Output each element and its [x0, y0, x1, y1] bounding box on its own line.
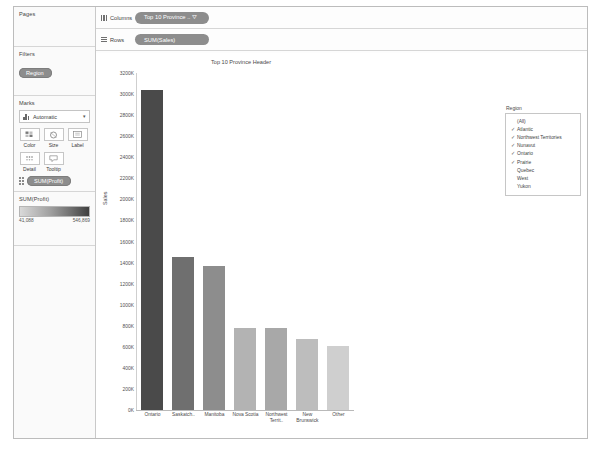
pages-card[interactable]: Pages [14, 7, 95, 47]
bar-mark[interactable] [203, 266, 225, 410]
y-axis-tick: 2400K [120, 155, 134, 160]
columns-shelf-label: Columns [110, 15, 132, 21]
rows-icon [101, 37, 107, 43]
drag-handle-icon[interactable] [19, 177, 25, 185]
region-legend-item[interactable]: West [508, 174, 578, 182]
bar-column [137, 73, 168, 410]
x-axis-label[interactable]: Ontario [137, 412, 168, 424]
bar-chart-icon [23, 113, 30, 120]
x-axis-label[interactable]: Northwest Territ.. [261, 412, 292, 424]
left-sidebar: Pages Filters Region Marks Automatic ▾ [14, 7, 96, 438]
marks-label-label: Label [67, 142, 88, 148]
detail-dots-icon [20, 152, 40, 165]
columns-shelf[interactable]: Columns Top 10 Province .. ⛛ [96, 7, 587, 29]
size-circle-icon [44, 128, 64, 141]
y-axis-tick: 1800K [120, 218, 134, 223]
y-axis-tick: 1000K [120, 302, 134, 307]
bar-column [261, 73, 292, 410]
bar-mark[interactable] [234, 328, 256, 410]
region-legend-item[interactable]: ✓Atlantic [508, 125, 578, 133]
region-legend-item[interactable]: (All) [508, 117, 578, 125]
y-axis-tick: 2800K [120, 113, 134, 118]
region-legend-item[interactable]: ✓Northwest Territories [508, 133, 578, 141]
checkmark-icon[interactable]: ✓ [509, 143, 516, 148]
region-legend-item[interactable]: Yukon [508, 183, 578, 191]
color-gradient-labels: 41,088 546,869 [19, 218, 90, 223]
region-legend-item[interactable]: ✓Ontario [508, 150, 578, 158]
rows-shelf-label: Rows [110, 37, 124, 43]
marks-label-button[interactable]: Label [67, 128, 88, 148]
marks-size-label: Size [43, 142, 64, 148]
mark-type-dropdown[interactable]: Automatic ▾ [19, 110, 90, 123]
checkmark-icon[interactable]: ✓ [509, 127, 516, 132]
bar-column [323, 73, 354, 410]
marks-color-label: Color [19, 142, 40, 148]
region-legend-title: Region [505, 105, 581, 111]
region-legend-item-label: (All) [516, 119, 526, 124]
mark-type-value: Automatic [33, 114, 57, 120]
x-axis-label[interactable]: Manitoba [199, 412, 230, 424]
y-axis-ticks: 3200K3000K2800K2600K2400K2200K2000K1800K… [108, 73, 136, 410]
visualization-area: Top 10 Province Header Sales 3200K3000K2… [96, 53, 587, 438]
filter-pill-region[interactable]: Region [19, 68, 52, 78]
region-legend-item-label: Quebec [516, 168, 534, 173]
checkmark-icon[interactable]: ✓ [509, 160, 516, 165]
checkmark-icon[interactable]: ✓ [509, 135, 516, 140]
bar-column [168, 73, 199, 410]
color-gradient-bar[interactable] [19, 206, 90, 217]
marks-tooltip-button[interactable]: Tooltip [43, 152, 64, 172]
marks-spacer [67, 152, 88, 172]
region-filter-legend: Region (All)✓Atlantic✓Northwest Territor… [505, 105, 581, 196]
x-axis-labels: OntarioSaskatch..ManitobaNova ScotiaNort… [137, 412, 354, 424]
size-circle-glyph [49, 131, 58, 139]
bar-mark[interactable] [265, 328, 287, 410]
chevron-down-icon: ▾ [83, 114, 86, 119]
bar-mark[interactable] [141, 90, 163, 410]
bar-mark[interactable] [172, 257, 194, 410]
marks-card: Marks Automatic ▾ [14, 96, 95, 192]
pages-card-title: Pages [19, 11, 90, 17]
color-palette-icon [20, 128, 40, 141]
y-axis-tick: 2000K [120, 197, 134, 202]
color-palette-glyph [25, 131, 34, 138]
columns-pill-top-10-province[interactable]: Top 10 Province .. ⛛ [135, 12, 209, 24]
y-axis-tick: 2200K [120, 176, 134, 181]
x-axis-label[interactable]: Other [323, 412, 354, 424]
tooltip-bubble-glyph [49, 155, 58, 163]
bar-mark[interactable] [327, 346, 349, 410]
checkmark-icon[interactable]: ✓ [509, 151, 516, 156]
region-legend-item[interactable]: Quebec [508, 166, 578, 174]
app-frame: Pages Filters Region Marks Automatic ▾ [13, 6, 588, 439]
marks-color-button[interactable]: Color [19, 128, 40, 148]
rows-pill-sum-sales[interactable]: SUM(Sales) [135, 34, 209, 45]
rows-shelf-label-group: Rows [101, 37, 135, 43]
label-text-icon [68, 128, 88, 141]
region-legend-item-label: Atlantic [516, 127, 533, 132]
bar-column [199, 73, 230, 410]
bar-mark[interactable] [296, 339, 318, 410]
columns-shelf-label-group: Columns [101, 15, 135, 21]
region-legend-item[interactable]: ✓Prairie [508, 158, 578, 166]
region-legend-item[interactable]: ✓Nunavut [508, 142, 578, 150]
region-legend-item-label: Prairie [516, 160, 531, 165]
marks-button-row-2: Detail Tooltip [19, 152, 90, 172]
region-legend-item-label: West [516, 176, 528, 181]
region-legend-item-label: Yukon [516, 184, 531, 189]
x-axis-label[interactable]: Nova Scotia [230, 412, 261, 424]
filters-card[interactable]: Filters Region [14, 47, 95, 96]
marks-measure-pill-sum-profit[interactable]: SUM(Profit) [27, 176, 71, 186]
x-axis-label[interactable]: New Brunswick [292, 412, 323, 424]
marks-size-button[interactable]: Size [43, 128, 64, 148]
y-axis-tick: 1400K [120, 260, 134, 265]
x-axis-label[interactable]: Saskatch.. [168, 412, 199, 424]
marks-detail-button[interactable]: Detail [19, 152, 40, 172]
color-legend-max: 546,869 [73, 218, 90, 223]
tableau-worksheet-window: Pages Filters Region Marks Automatic ▾ [0, 0, 600, 449]
y-axis-tick: 600K [123, 344, 134, 349]
bar-column [230, 73, 261, 410]
rows-shelf[interactable]: Rows SUM(Sales) [96, 29, 587, 51]
marks-detail-label: Detail [19, 166, 40, 172]
region-legend-item-label: Ontario [516, 151, 533, 156]
filters-card-title: Filters [19, 51, 90, 57]
marks-tooltip-label: Tooltip [43, 166, 64, 172]
